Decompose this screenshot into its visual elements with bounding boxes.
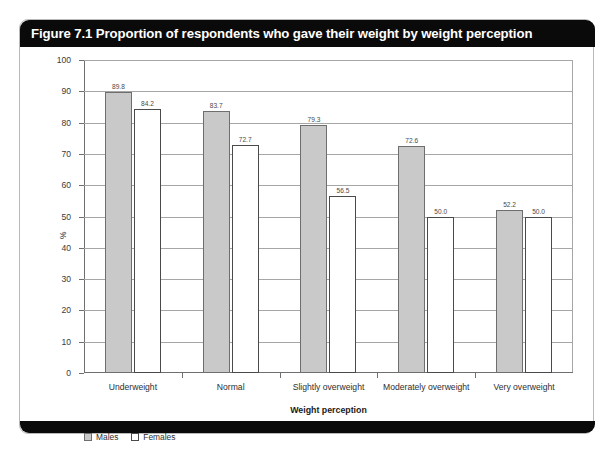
legend-swatch-females (131, 433, 139, 441)
bar-group: 83.772.7 (182, 60, 280, 373)
legend-label-males: Males (96, 432, 118, 442)
y-tick-label: 90 (31, 86, 71, 96)
x-category-label: Underweight (84, 382, 182, 392)
bar (105, 92, 132, 373)
bar-group: 79.356.5 (280, 60, 378, 373)
y-tick-label: 80 (31, 118, 71, 128)
y-tick-label: 0 (31, 368, 71, 378)
bar-group: 72.650.0 (377, 60, 475, 373)
bar-value-label: 89.8 (99, 83, 138, 90)
figure-title-bar: Figure 7.1 Proportion of respondents who… (20, 20, 595, 47)
y-tick-label: 100 (31, 55, 71, 65)
legend-item-males: Males (84, 432, 118, 442)
y-tick-label: 10 (31, 337, 71, 347)
bar-value-label: 72.6 (392, 137, 431, 144)
y-tick-label: 70 (31, 149, 71, 159)
y-tick (79, 373, 84, 374)
x-category-label: Very overweight (475, 382, 573, 392)
legend-swatch-males (84, 433, 92, 441)
bar-group: 52.250.0 (475, 60, 573, 373)
bar-value-label: 79.3 (294, 116, 333, 123)
bar (329, 196, 356, 373)
bar (300, 125, 327, 373)
plot-area-wrapper: % 0102030405060708090100 89.884.283.772.… (20, 47, 595, 423)
bar-value-label: 72.7 (226, 136, 265, 143)
bar-group: 89.884.2 (84, 60, 182, 373)
bar (134, 109, 161, 373)
bar-value-label: 83.7 (197, 102, 236, 109)
x-category-label: Moderately overweight (377, 382, 475, 392)
x-tick (377, 373, 378, 378)
legend-label-females: Females (143, 432, 175, 442)
figure-bottom-bar (20, 421, 595, 433)
y-tick-label: 60 (31, 180, 71, 190)
bar-value-label: 50.0 (421, 208, 460, 215)
bar (232, 145, 259, 373)
x-category-label: Normal (182, 382, 280, 392)
x-tick (475, 373, 476, 378)
bar-value-label: 84.2 (128, 100, 167, 107)
x-category-label: Slightly overweight (280, 382, 378, 392)
y-tick-label: 40 (31, 243, 71, 253)
legend: Males Females (84, 432, 175, 442)
bar (525, 217, 552, 374)
bar (398, 146, 425, 373)
legend-item-females: Females (131, 432, 175, 442)
bar-value-label: 56.5 (323, 187, 362, 194)
figure-panel: Figure 7.1 Proportion of respondents who… (19, 19, 594, 434)
bar (496, 210, 523, 373)
figure-title: Figure 7.1 Proportion of respondents who… (20, 26, 532, 41)
plot-area: 0102030405060708090100 89.884.283.772.77… (84, 60, 573, 373)
x-tick (182, 373, 183, 378)
x-tick (280, 373, 281, 378)
x-axis-title: Weight perception (84, 405, 573, 415)
y-tick-label: 50 (31, 212, 71, 222)
bar-value-label: 50.0 (519, 208, 558, 215)
bar (427, 217, 454, 374)
y-tick-label: 20 (31, 305, 71, 315)
y-axis-title: % (58, 232, 68, 239)
bar (203, 111, 230, 373)
y-tick-label: 30 (31, 274, 71, 284)
